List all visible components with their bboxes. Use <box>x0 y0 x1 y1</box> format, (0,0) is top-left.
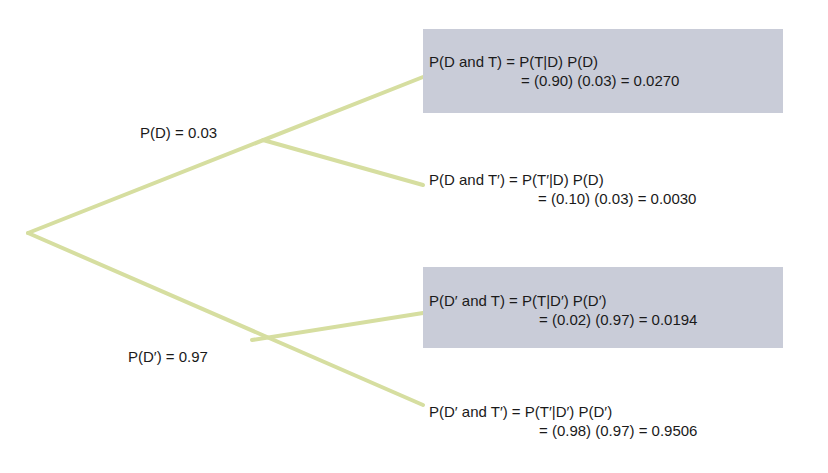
formula-line-1: P(D′ and T′) = P(T′|D′) P(D′) <box>429 403 612 420</box>
outcome-d-prime-and-t-prime: P(D′ and T′) = P(T′|D′) P(D′) = (0.98) (… <box>429 402 697 440</box>
formula-line-1: P(D and T′) = P(T′|D) P(D) <box>429 171 604 188</box>
prob-d-label: P(D) = 0.03 <box>140 124 217 141</box>
branch-root-to-d-prime-bottom <box>28 233 423 405</box>
outcome-d-prime-and-t: P(D′ and T) = P(T|D′) P(D′) = (0.02) (0.… <box>429 291 697 329</box>
formula-line-2: = (0.02) (0.97) = 0.0194 <box>429 310 697 329</box>
branch-d-prime-to-d-prime-and-t <box>252 313 423 340</box>
formula-line-2: = (0.98) (0.97) = 0.9506 <box>429 421 697 440</box>
formula-line-1: P(D′ and T) = P(T|D′) P(D′) <box>429 292 607 309</box>
prob-d-prime-label: P(D′) = 0.97 <box>128 348 208 365</box>
formula-line-1: P(D and T) = P(T|D) P(D) <box>429 53 598 70</box>
formula-line-2: = (0.10) (0.03) = 0.0030 <box>429 189 696 208</box>
branch-root-to-d-top <box>28 77 423 233</box>
outcome-d-and-t: P(D and T) = P(T|D) P(D) = (0.90) (0.03)… <box>429 52 679 90</box>
branch-d-to-d-and-t-prime <box>263 140 423 185</box>
formula-line-2: = (0.90) (0.03) = 0.0270 <box>429 71 679 90</box>
outcome-d-and-t-prime: P(D and T′) = P(T′|D) P(D) = (0.10) (0.0… <box>429 170 696 208</box>
